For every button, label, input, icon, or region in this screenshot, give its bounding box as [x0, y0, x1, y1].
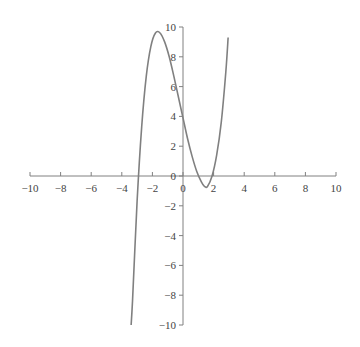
y-tick-label: 0: [171, 170, 177, 182]
x-tick-label: −10: [21, 182, 39, 194]
chart: −10−8−6−4−20246810 −10−8−6−4−20246810: [0, 0, 360, 347]
x-axis-ticks: −10−8−6−4−20246810: [21, 172, 342, 194]
y-tick-label: −8: [164, 289, 176, 301]
y-tick-label: 4: [171, 110, 177, 122]
y-tick-label: −2: [164, 200, 176, 212]
x-tick-label: 2: [211, 182, 217, 194]
x-tick-label: 8: [303, 182, 309, 194]
y-tick-label: −10: [159, 319, 177, 331]
x-tick-label: −2: [147, 182, 159, 194]
x-tick-label: 4: [241, 182, 247, 194]
y-tick-label: −6: [164, 259, 176, 271]
x-tick-label: −4: [116, 182, 128, 194]
x-tick-label: 6: [272, 182, 278, 194]
x-tick-label: −6: [85, 182, 97, 194]
y-tick-label: 2: [171, 140, 177, 152]
y-tick-label: −4: [164, 230, 176, 242]
x-tick-label: −8: [55, 182, 67, 194]
y-tick-label: 8: [171, 51, 177, 63]
x-tick-label: 10: [331, 182, 343, 194]
y-tick-label: 10: [165, 21, 177, 33]
x-tick-label: 0: [180, 182, 186, 194]
